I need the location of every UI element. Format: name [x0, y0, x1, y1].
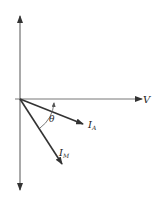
i-m-label: IM — [58, 147, 70, 159]
v-label: V — [143, 94, 152, 105]
theta-label: θ — [49, 114, 55, 124]
i-a-label: IA — [87, 119, 97, 131]
vector-i-m — [20, 99, 62, 164]
phasor-diagram: V IA IM θ — [0, 0, 156, 201]
